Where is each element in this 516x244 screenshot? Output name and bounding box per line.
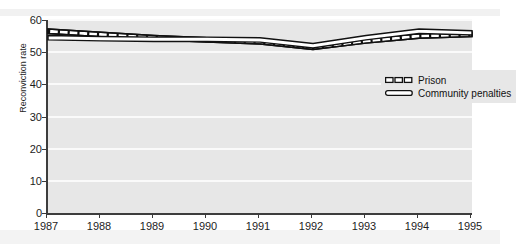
legend-item-community-penalties[interactable]: Community penalties bbox=[385, 87, 511, 99]
x-tick-mark bbox=[152, 213, 153, 218]
chart-title-clipped bbox=[0, 0, 500, 9]
x-tick-label: 1989 bbox=[140, 220, 164, 232]
y-tick-label: 50 bbox=[2, 46, 42, 58]
x-tick-label: 1992 bbox=[299, 220, 323, 232]
x-tick-mark bbox=[311, 213, 312, 218]
x-tick-mark bbox=[258, 213, 259, 218]
solid-ribbon-swatch bbox=[385, 89, 413, 97]
x-axis-ticks: 198719881989199019911992199319941995 bbox=[46, 20, 470, 80]
x-tick-label: 1988 bbox=[87, 220, 111, 232]
x-tick-mark bbox=[364, 213, 365, 218]
y-tick-label: 20 bbox=[2, 143, 42, 155]
bottom-background-band bbox=[0, 230, 500, 244]
y-axis-ticks: 0102030405060 bbox=[0, 0, 42, 244]
y-tick-label: 60 bbox=[2, 14, 42, 26]
x-tick-mark bbox=[46, 213, 47, 218]
y-tick-label: 30 bbox=[2, 111, 42, 123]
y-tick-label: 40 bbox=[2, 78, 42, 90]
x-tick-label: 1987 bbox=[34, 220, 58, 232]
y-tick-label: 0 bbox=[2, 207, 42, 219]
y-tick-label: 10 bbox=[2, 175, 42, 187]
x-tick-mark bbox=[470, 213, 471, 218]
legend-label-community-penalties: Community penalties bbox=[418, 88, 511, 99]
x-tick-mark bbox=[205, 213, 206, 218]
x-tick-mark bbox=[417, 213, 418, 218]
x-tick-label: 1993 bbox=[352, 220, 376, 232]
x-tick-label: 1991 bbox=[246, 220, 270, 232]
x-tick-mark bbox=[99, 213, 100, 218]
x-tick-label: 1995 bbox=[458, 220, 482, 232]
x-tick-label: 1990 bbox=[193, 220, 217, 232]
top-background-band bbox=[0, 9, 500, 16]
x-tick-label: 1994 bbox=[405, 220, 429, 232]
